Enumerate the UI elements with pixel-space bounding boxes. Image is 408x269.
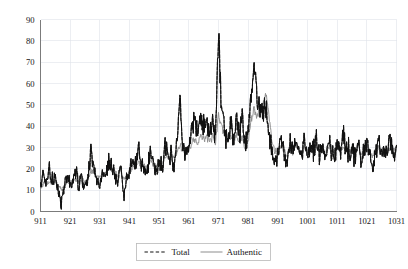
chart-background [0, 0, 408, 269]
y-axis-tick-label: 20 [26, 164, 35, 174]
x-axis-tick-label: 931 [93, 216, 106, 226]
y-axis-tick-label: 60 [26, 79, 35, 89]
x-axis-tick-label: 961 [182, 216, 195, 226]
x-axis-tick-label: 971 [212, 216, 225, 226]
chart-legend[interactable]: TotalAuthentic [137, 244, 271, 261]
legend-label-total[interactable]: Total [172, 247, 191, 257]
x-axis-tick-label: 1001 [299, 216, 316, 226]
x-axis-tick-label: 991 [271, 216, 284, 226]
y-axis-tick-label: 10 [26, 185, 35, 195]
x-axis-tick-label: 1011 [329, 216, 346, 226]
x-axis-tick-label: 941 [123, 216, 136, 226]
y-axis-tick-label: 90 [26, 15, 35, 25]
x-axis-tick-label: 921 [64, 216, 77, 226]
x-axis-tick-label: 1021 [358, 216, 375, 226]
x-axis-tick-label: 911 [34, 216, 47, 226]
legend-label-authentic[interactable]: Authentic [227, 247, 263, 257]
y-axis-tick-label: 50 [26, 100, 35, 110]
line-chart: 0102030405060708090 91192193194195196197… [0, 0, 408, 269]
chart-container: 0102030405060708090 91192193194195196197… [0, 0, 408, 269]
x-axis-tick-label: 981 [242, 216, 255, 226]
y-axis-tick-label: 80 [26, 36, 35, 46]
x-axis-tick-label: 1031 [388, 216, 405, 226]
y-axis-tick-label: 40 [26, 121, 35, 131]
y-axis-tick-label: 70 [26, 57, 35, 67]
y-axis-tick-label: 30 [26, 143, 35, 153]
x-axis-tick-label: 951 [153, 216, 166, 226]
